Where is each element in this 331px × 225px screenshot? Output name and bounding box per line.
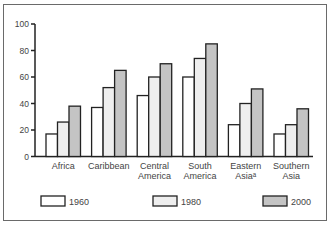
category-label: Southern [273,161,310,171]
y-tick-label: 0 [24,152,29,162]
legend-label-1980: 1980 [181,197,201,207]
category-label: America [138,171,171,181]
bar-1980-africa [58,122,70,156]
y-tick-label: 100 [15,19,29,29]
bar-1960-africa [46,134,58,157]
y-tick-label: 80 [20,46,30,56]
legend-label-2000: 2000 [291,197,311,207]
bar-1980-southernasia [286,125,298,157]
category-label: Caribbean [88,161,130,171]
bar-2000-southernasia [297,109,309,157]
category-label: Asiaᵃ [235,171,257,181]
category-label: Central [140,161,169,171]
bar-1960-easternasia [228,125,240,157]
bars [46,44,309,157]
y-tick-label: 20 [20,125,30,135]
bar-1960-caribbean [92,107,104,156]
category-label: South [188,161,212,171]
bar-2000-southamerica [206,44,218,157]
category-label: Eastern [230,161,261,171]
bar-2000-caribbean [115,70,127,156]
bar-1980-centralamerica [149,77,161,157]
y-tick-label: 60 [20,72,30,82]
category-labels: AfricaCaribbeanCentralAmericaSouthAmeric… [52,161,310,181]
category-label: Africa [52,161,75,171]
bar-1960-southernasia [274,134,286,157]
bar-2000-centralamerica [160,64,172,157]
bar-1980-caribbean [103,88,115,157]
bar-2000-easternasia [251,89,263,157]
bar-chart: 020406080100 AfricaCaribbeanCentralAmeri… [0,0,331,225]
bar-1960-centralamerica [137,96,149,157]
bar-1980-southamerica [194,58,206,156]
legend-swatch-2000 [263,196,287,206]
y-tick-label: 40 [20,99,30,109]
bar-1980-easternasia [240,104,252,157]
legend-label-1960: 1960 [69,197,89,207]
category-label: Asia [282,171,300,181]
legend-swatch-1980 [153,196,177,206]
category-label: America [184,171,217,181]
legend: 196019802000 [41,196,311,207]
bar-2000-africa [69,106,81,156]
bar-1960-southamerica [183,77,195,157]
legend-swatch-1960 [41,196,65,206]
